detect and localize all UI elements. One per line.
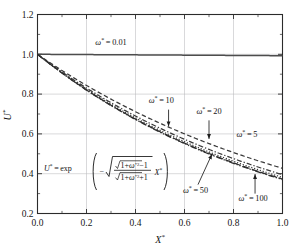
curve-label-omega-5: ω* = 5 (236, 129, 257, 139)
y-tick-label: 0.2 (22, 209, 34, 219)
x-tick-label: 0.6 (179, 218, 191, 228)
equation-denominator: 1+ω*2+1 (121, 173, 148, 182)
chart-svg: 0.00.20.40.60.81.0 0.20.40.60.81.01.2 ω*… (0, 0, 295, 251)
x-tick-label: 1.0 (277, 218, 289, 228)
x-tick-label: 0.2 (81, 218, 93, 228)
chart-figure: 0.00.20.40.60.81.0 0.20.40.60.81.01.2 ω*… (0, 0, 295, 251)
y-tick-label: 1.0 (22, 50, 34, 60)
y-tick-label: 1.2 (22, 10, 34, 20)
curve-label-omega-100: ω* = 100 (238, 193, 267, 203)
equation-numerator: 1+ω*2−1 (121, 161, 148, 170)
curve-label-omega-0.01: ω* = 0.01 (95, 37, 126, 47)
y-tick-label: 0.4 (22, 169, 34, 179)
equation-minus: − (100, 167, 105, 176)
x-tick-label: 0.8 (228, 218, 240, 228)
curve-label-omega-20: ω* = 20 (196, 106, 221, 116)
y-tick-label: 0.8 (22, 89, 34, 99)
x-tick-label: 0.0 (32, 218, 44, 228)
equation-lhs: U* = exp (44, 163, 72, 173)
curve-label-omega-10: ω* = 10 (149, 95, 174, 105)
y-tick-label: 0.6 (22, 129, 34, 139)
x-tick-label: 0.4 (130, 218, 142, 228)
curve-label-omega-50: ω* = 50 (183, 185, 208, 195)
